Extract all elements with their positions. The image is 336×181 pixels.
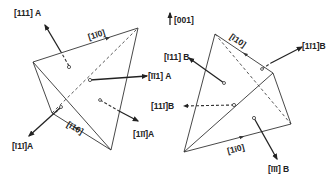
normal-bbb-arrow-icon — [254, 118, 277, 159]
tetrahedra-diagram: [111] A [1ī0] [īī1] A [ī10] [ī1ī]A [1īī]… — [0, 0, 336, 181]
normal-b11-arrow-icon — [189, 58, 224, 83]
normal-hidden — [100, 100, 119, 111]
tetrahedron-b: [ī11] B [ī10] [1ī1]B [11ī]B [1ī0] [īīī] … — [151, 31, 326, 174]
face-center-dot — [99, 99, 102, 102]
label-edge-b-top: [ī10] — [228, 31, 248, 49]
label-edge-a-top: [1ī0] — [87, 27, 107, 42]
label-normal-b3: [11ī]B — [151, 101, 174, 111]
normal-111-arrow-icon — [45, 25, 61, 52]
normal-hidden — [61, 52, 69, 66]
normal-11b-arrow-icon — [184, 105, 234, 106]
tetrahedron-a: [111] A [1ī0] [īī1] A [ī10] [ī1ī]A [1īī]… — [12, 8, 171, 151]
normal-1bb-arrow-icon — [119, 111, 138, 121]
normal-bb1-arrow-icon — [90, 76, 147, 80]
face-center-dot — [252, 116, 255, 119]
label-normal-b1: [ī11] B — [164, 52, 190, 62]
face-center-dot — [67, 65, 70, 68]
label-normal-a3: [ī1ī]A — [12, 141, 33, 151]
normal-1b1-arrow-icon — [271, 47, 302, 63]
hidden-edge — [215, 34, 291, 124]
face-center-dot — [88, 78, 91, 81]
edge — [33, 62, 111, 150]
label-normal-b4: [īīī] B — [268, 164, 289, 174]
normal-b1b-arrow-icon — [29, 107, 61, 136]
hidden-edge — [52, 28, 138, 113]
edge-top — [33, 28, 138, 62]
label-normal-a2: [īī1] A — [148, 71, 171, 81]
face-center-dot — [60, 106, 63, 109]
edge — [273, 73, 291, 124]
label-axis: [001] — [174, 15, 194, 25]
face-center-dot — [223, 82, 226, 85]
face-center-dot — [232, 103, 235, 106]
label-normal-a4: [1īī]A — [133, 129, 154, 139]
label-normal-a1: [111] A — [14, 8, 41, 18]
face-center-dot — [261, 68, 264, 71]
label-edge-a-bottom: [ī10] — [65, 119, 85, 136]
edge — [33, 62, 52, 113]
label-normal-b2: [1ī1]B — [302, 41, 326, 51]
axis-indicator: [001] — [170, 13, 194, 25]
label-edge-b-bottom: [1ī0] — [226, 142, 246, 156]
